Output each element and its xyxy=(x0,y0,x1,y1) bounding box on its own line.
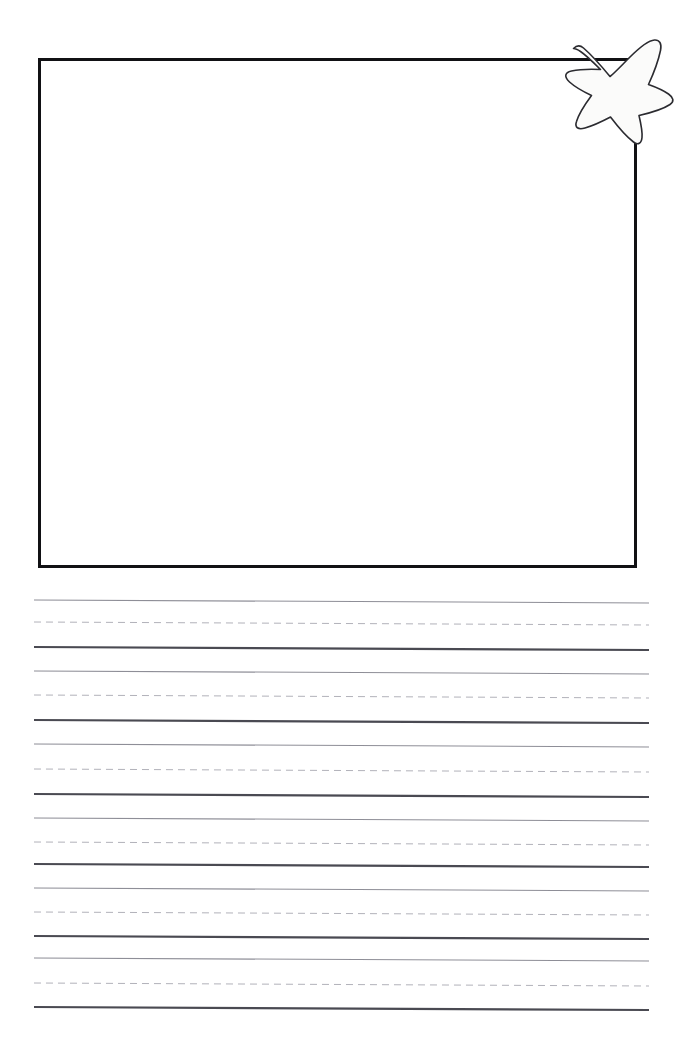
worksheet-page xyxy=(0,0,681,1042)
rule-group xyxy=(34,818,649,867)
rule-group xyxy=(34,671,649,723)
handwriting-rules xyxy=(0,568,681,1042)
rule-group xyxy=(34,744,649,797)
drawing-area[interactable] xyxy=(38,58,637,568)
writing-area[interactable] xyxy=(0,568,681,1042)
rule-group xyxy=(34,958,649,1010)
illustration-box-canvas[interactable] xyxy=(41,61,634,565)
rule-group xyxy=(34,600,649,650)
star-icon-shape xyxy=(560,32,676,148)
star-icon xyxy=(560,32,676,148)
rule-group xyxy=(34,888,649,939)
